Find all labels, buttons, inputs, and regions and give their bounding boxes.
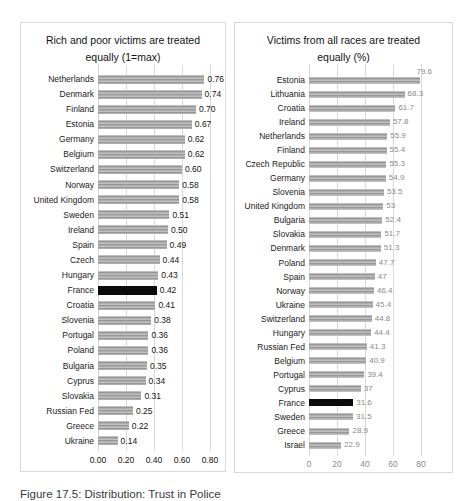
bar	[98, 195, 179, 204]
x-axis-tick-label: 0.40	[139, 455, 169, 465]
bar	[98, 376, 146, 385]
bar	[309, 371, 364, 378]
bar	[309, 343, 367, 350]
value-label: 31.6	[356, 398, 372, 408]
bar	[309, 119, 390, 126]
bar	[98, 316, 151, 325]
bar	[309, 133, 387, 140]
category-label: Slovakia	[235, 229, 305, 239]
gridline	[421, 64, 422, 456]
chart-race-equal-treatment: Victims from all races are treated equal…	[234, 22, 453, 473]
bar	[309, 428, 349, 435]
category-label: Denmark	[21, 89, 94, 99]
category-label: Estonia	[21, 119, 94, 129]
category-label: Ireland	[235, 117, 305, 127]
bar	[309, 217, 382, 224]
x-axis-tick-label: 40	[350, 459, 380, 469]
category-label: United Kingdom	[21, 195, 94, 205]
value-label: 0.31	[144, 391, 161, 401]
value-label: 0.22	[132, 421, 149, 431]
category-label: United Kingdom	[235, 201, 305, 211]
category-label: Spain	[21, 240, 94, 250]
value-label: 0.14	[121, 436, 138, 446]
value-label: 41.3	[370, 342, 386, 352]
bar	[309, 105, 395, 112]
value-label: 40.9	[369, 356, 385, 366]
category-label: Cyprus	[235, 384, 305, 394]
value-label: 0.74	[205, 89, 222, 99]
category-label: Germany	[235, 173, 305, 183]
value-label: 54.9	[389, 173, 405, 183]
value-label: 53	[386, 201, 395, 211]
bar	[98, 75, 204, 84]
chart-rich-poor-equal-treatment: Rich and poor victims are treated equall…	[20, 22, 226, 472]
value-label: 0.49	[170, 240, 187, 250]
figure-caption: Figure 17.5: Distribution: Trust in Poli…	[20, 487, 221, 501]
category-label: Cyprus	[21, 376, 94, 386]
category-label: Israel	[235, 440, 305, 450]
bar	[309, 287, 374, 294]
category-label: Switzerland	[235, 314, 305, 324]
value-label: 0.34	[149, 376, 166, 386]
category-label: Lithuania	[235, 89, 305, 99]
category-label: Russian Fed	[235, 342, 305, 352]
category-label: Poland	[21, 345, 94, 355]
bar	[98, 331, 148, 340]
bar	[309, 357, 366, 364]
plot-area: 020406080Estonia79.6Lithuania68.3Croatia…	[235, 23, 452, 472]
value-label: 53.5	[387, 187, 403, 197]
bar-highlighted	[309, 399, 353, 406]
value-label: 0.67	[195, 119, 212, 129]
category-label: Slovakia	[21, 391, 94, 401]
category-label: Denmark	[235, 243, 305, 253]
category-label: Netherlands	[235, 131, 305, 141]
category-label: Bulgaria	[235, 215, 305, 225]
bar	[309, 259, 376, 266]
bar	[98, 301, 155, 310]
value-label: 44.4	[374, 328, 390, 338]
bar	[98, 346, 148, 355]
x-axis-tick-label: 0.00	[83, 455, 113, 465]
value-label: 0.50	[171, 225, 188, 235]
bar	[309, 301, 373, 308]
value-label: 45.4	[376, 300, 392, 310]
x-axis-tick-label: 60	[378, 459, 408, 469]
value-label: 79.6	[416, 67, 432, 77]
bar	[309, 329, 371, 336]
bar	[98, 120, 192, 129]
value-label: 0.42	[160, 285, 177, 295]
category-label: Slovenia	[21, 315, 94, 325]
value-label: 39.4	[367, 370, 383, 380]
x-axis-tick-label: 0	[294, 459, 324, 469]
bar	[309, 147, 387, 154]
category-label: Portugal	[235, 370, 305, 380]
bar	[98, 421, 129, 430]
value-label: 0.44	[163, 255, 180, 265]
value-label: 52.4	[385, 215, 401, 225]
category-label: Hungary	[21, 270, 94, 280]
category-label: Hungary	[235, 328, 305, 338]
bar	[309, 175, 386, 182]
category-label: Croatia	[235, 103, 305, 113]
value-label: 47.7	[379, 258, 395, 268]
category-label: Bulgaria	[21, 361, 94, 371]
bar	[309, 442, 341, 449]
value-label: 0.62	[188, 134, 205, 144]
bar	[98, 255, 160, 264]
category-label: Czech Republic	[235, 159, 305, 169]
category-label: France	[21, 285, 94, 295]
bar	[309, 245, 381, 252]
category-label: Norway	[235, 286, 305, 296]
bar	[98, 391, 141, 400]
category-label: Portugal	[21, 330, 94, 340]
category-label: Slovenia	[235, 187, 305, 197]
value-label: 37	[364, 384, 373, 394]
plot-area: 0.000.200.400.600.80Netherlands0.76Denma…	[21, 23, 225, 471]
category-label: Czech	[21, 255, 94, 265]
value-label: 0.58	[182, 180, 199, 190]
bar	[98, 210, 169, 219]
value-label: 0.76	[207, 74, 224, 84]
category-label: Ireland	[21, 225, 94, 235]
value-label: 0.36	[151, 330, 168, 340]
value-label: 31.5	[356, 412, 372, 422]
